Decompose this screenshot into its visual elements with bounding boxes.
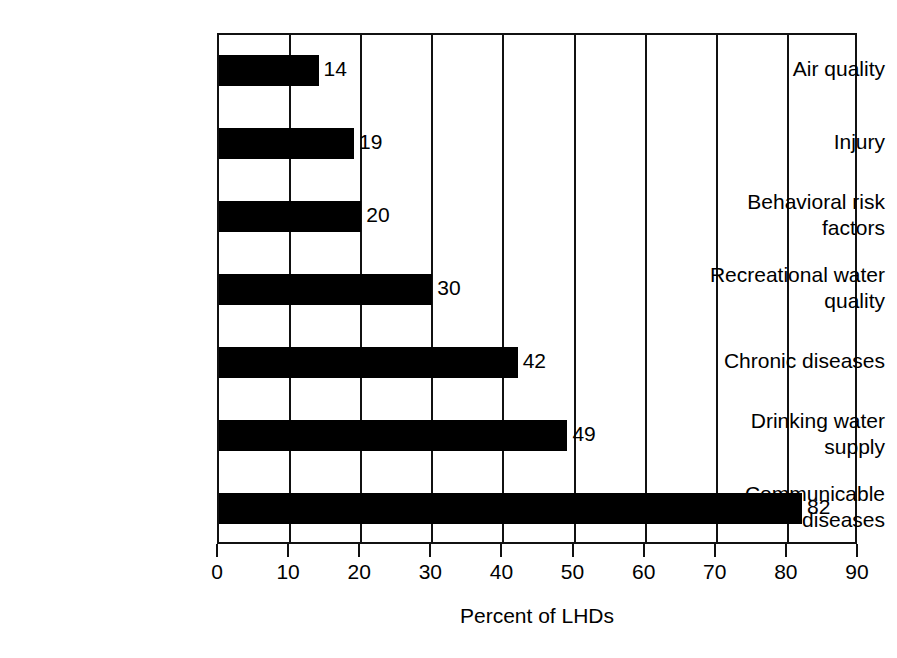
x-axis-tick [643,544,645,557]
bar-value-label: 49 [565,418,595,449]
category-label: Recreational waterquality [687,262,897,314]
x-axis-tick [358,544,360,557]
x-axis-tick-label: 20 [329,560,389,584]
category-label-line: Communicable [687,481,885,507]
category-label: Injury [687,129,897,155]
x-axis-tick-label: 40 [471,560,531,584]
x-axis-tick [216,544,218,557]
x-axis-tick-label: 50 [543,560,603,584]
x-axis-tick-label: 60 [614,560,674,584]
gridline [574,35,576,542]
x-axis-tick [714,544,716,557]
bar-value-label: 19 [352,126,382,157]
x-axis-tick [785,544,787,557]
gridline [502,35,504,542]
x-axis-tick-label: 0 [187,560,247,584]
category-label-line: Recreational water [687,262,885,288]
category-label-line: diseases [687,507,885,533]
category-label-line: Behavioral risk [687,189,885,215]
bar [219,347,518,378]
category-label-line: quality [687,288,885,314]
category-label-line: factors [687,215,885,241]
category-label: Chronic diseases [687,348,897,374]
category-label: Communicablediseases [687,481,897,533]
bar [219,128,354,159]
category-label-line: Air quality [687,56,885,82]
x-axis-tick [287,544,289,557]
category-label: Drinking watersupply [687,408,897,460]
category-label: Air quality [687,56,897,82]
bar [219,201,361,232]
bar-value-label: 14 [317,53,347,84]
x-axis-tick [856,544,858,557]
bar [219,274,432,305]
x-axis-title: Percent of LHDs [217,604,857,628]
x-axis-tick [429,544,431,557]
x-axis-tick-label: 30 [400,560,460,584]
bar-value-label: 42 [516,345,546,376]
x-axis-tick-label: 80 [756,560,816,584]
bar [219,55,319,86]
bar-value-label: 30 [430,272,460,303]
category-label: Behavioral riskfactors [687,189,897,241]
bar-chart: 14192030424982 Air qualityInjuryBehavior… [0,0,897,658]
bar [219,420,567,451]
x-axis-tick [572,544,574,557]
gridline [645,35,647,542]
category-label-line: supply [687,434,885,460]
x-axis-tick-label: 10 [258,560,318,584]
x-axis-tick-label: 90 [827,560,887,584]
category-label-line: Drinking water [687,408,885,434]
category-label-line: Injury [687,129,885,155]
x-axis-tick [500,544,502,557]
bar-value-label: 20 [359,199,389,230]
category-label-line: Chronic diseases [687,348,885,374]
x-axis-tick-label: 70 [685,560,745,584]
